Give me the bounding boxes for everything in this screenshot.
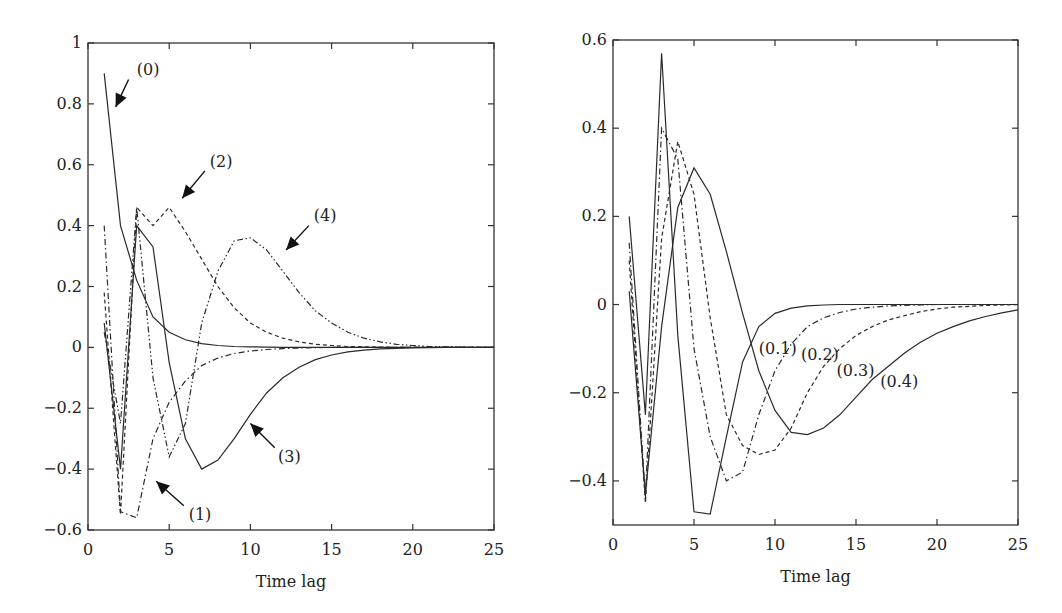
x-tick-label: 5 xyxy=(164,540,174,559)
y-tick-label: −0.6 xyxy=(43,520,82,539)
series-line-0 xyxy=(104,73,494,347)
series-line-2 xyxy=(104,207,494,514)
series-annotation-label: (0.4) xyxy=(880,372,918,391)
x-tick-label: 0 xyxy=(608,535,618,554)
y-tick-label: −0.4 xyxy=(43,459,82,478)
y-tick-label: 0.8 xyxy=(57,94,82,113)
x-tick-label: 25 xyxy=(1008,535,1028,554)
x-axis-title: Time lag xyxy=(256,572,326,591)
y-tick-label: 0.4 xyxy=(57,216,82,235)
x-tick-label: 10 xyxy=(765,535,785,554)
x-axis-title: Time lag xyxy=(780,567,850,586)
series-line-0-3 xyxy=(629,141,1018,503)
y-tick-label: 0 xyxy=(597,295,607,314)
y-tick-label: 0.2 xyxy=(582,206,607,225)
y-tick-label: −0.4 xyxy=(568,471,607,490)
x-tick-label: 25 xyxy=(484,540,504,559)
x-tick-label: 20 xyxy=(403,540,423,559)
y-tick-label: 0 xyxy=(72,337,82,356)
y-tick-label: −0.2 xyxy=(568,383,607,402)
series-annotation-label: (4) xyxy=(314,206,337,225)
series-annotation-label: (0) xyxy=(137,60,160,79)
y-tick-label: −0.2 xyxy=(43,398,82,417)
x-tick-label: 5 xyxy=(689,535,699,554)
x-tick-label: 15 xyxy=(846,535,866,554)
series-annotation-label: (2) xyxy=(210,152,233,171)
x-tick-label: 20 xyxy=(927,535,947,554)
y-tick-label: 1 xyxy=(72,33,82,52)
series-line-4 xyxy=(104,207,494,457)
y-tick-label: 0.4 xyxy=(582,118,607,137)
y-tick-label: 0.6 xyxy=(57,155,82,174)
series-line-0-1 xyxy=(629,53,1018,514)
y-tick-label: 0.2 xyxy=(57,277,82,296)
y-tick-label: 0.6 xyxy=(582,30,607,49)
x-tick-label: 15 xyxy=(321,540,341,559)
plot-frame xyxy=(613,40,1018,525)
x-tick-label: 0 xyxy=(83,540,93,559)
series-annotation-label: (0.1) xyxy=(759,339,797,358)
arrow-head-icon xyxy=(182,184,195,198)
series-annotation-label: (0.2) xyxy=(801,345,839,364)
right-chart-panel: 0510152025−0.4−0.200.20.40.6Time lag(0.1… xyxy=(568,30,1028,586)
x-tick-label: 10 xyxy=(240,540,260,559)
series-annotation-label: (3) xyxy=(278,447,301,466)
figure: 0510152025−0.6−0.4−0.200.20.40.60.81Time… xyxy=(0,0,1062,613)
series-annotation-label: (1) xyxy=(189,505,212,524)
left-chart-panel: 0510152025−0.6−0.4−0.200.20.40.60.81Time… xyxy=(43,33,504,591)
series-line-1 xyxy=(104,226,494,518)
series-annotation-label: (0.3) xyxy=(837,361,875,380)
